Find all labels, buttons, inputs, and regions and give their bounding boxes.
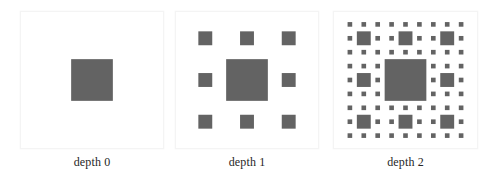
fractal-canvas-depth-1 xyxy=(176,12,318,148)
panel-group-depth-1: depth 1 xyxy=(175,0,319,182)
panel-frame-depth-2 xyxy=(333,11,478,149)
panel-caption-depth-2: depth 2 xyxy=(333,155,478,169)
fractal-figure: depth 0 depth 1 depth 2 xyxy=(0,0,491,182)
panel-caption-depth-1: depth 1 xyxy=(175,155,319,169)
panel-group-depth-2: depth 2 xyxy=(333,0,478,182)
panel-group-depth-0: depth 0 xyxy=(20,0,164,182)
panel-frame-depth-1 xyxy=(175,11,319,149)
panel-frame-depth-0 xyxy=(20,11,164,149)
panel-caption-depth-0: depth 0 xyxy=(20,155,164,169)
fractal-canvas-depth-0 xyxy=(21,12,163,148)
fractal-canvas-depth-2 xyxy=(334,12,477,148)
